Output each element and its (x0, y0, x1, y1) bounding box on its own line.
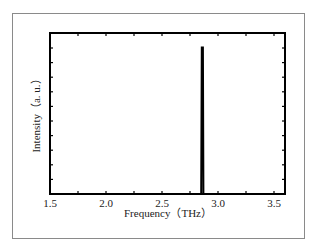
x-tick-label: 2.0 (99, 197, 113, 209)
x-tick-label: 3.0 (211, 197, 225, 209)
spectrum-line (50, 48, 285, 194)
plot-frame (50, 33, 285, 194)
x-axis-title: Frequency（THz） (124, 207, 212, 219)
chart: 1.52.02.53.03.5 Frequency（THz） Intensity… (0, 0, 314, 247)
x-tick-label: 3.5 (267, 197, 281, 209)
y-axis-title: Intensity（a. u.） (30, 73, 42, 152)
tick-marks (50, 33, 285, 194)
x-tick-label: 1.5 (43, 197, 57, 209)
